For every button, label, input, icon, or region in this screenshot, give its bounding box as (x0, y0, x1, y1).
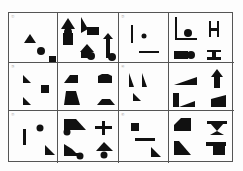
problem-2-options[interactable] (169, 13, 234, 63)
vertical-line-icon (175, 17, 177, 39)
ibeam-bottom (207, 57, 221, 60)
problem-6-question: ⑥ (119, 111, 169, 163)
pentagon-icon (174, 118, 191, 131)
circle-icon (101, 152, 108, 159)
block-icon (173, 93, 179, 107)
puzzle-grid: ① ② (8, 12, 233, 162)
problem-3-shapes (9, 63, 58, 111)
triangle-icon (81, 17, 88, 33)
problem-6-options[interactable] (169, 111, 234, 163)
circle-icon (184, 29, 192, 37)
horizontal-line-icon (175, 38, 197, 40)
right-triangle-icon (133, 93, 141, 101)
triangle-icon (24, 34, 36, 43)
problem-4-option-shapes (169, 63, 234, 111)
wedge-icon (179, 101, 195, 107)
hourglass-icon (210, 123, 224, 135)
l-wedge-icon (174, 141, 191, 155)
circle-icon (77, 153, 84, 160)
square-icon (87, 27, 99, 35)
problem-2-question: ② (119, 13, 169, 63)
problem-4-question: ④ (119, 63, 169, 111)
cross-horizontal (95, 126, 112, 129)
triangle-icon (61, 18, 75, 29)
rect-icon (63, 33, 73, 45)
trapezoid-icon (97, 99, 115, 105)
arrow-shaft-icon (214, 76, 220, 88)
right-triangle-icon (151, 147, 161, 157)
problem-3-option-shapes (58, 63, 119, 111)
rect-icon (174, 51, 188, 59)
right-triangle-icon (23, 97, 31, 105)
problem-5-question: ⑤ (9, 111, 58, 163)
horizontal-line-icon (139, 51, 159, 53)
right-triangle-icon (45, 145, 55, 155)
problem-1-question: ① (9, 13, 58, 63)
right-triangle-icon (129, 73, 134, 87)
circle-icon (37, 47, 45, 55)
circle-icon (187, 51, 195, 59)
rect-icon (81, 51, 91, 58)
problem-3-options[interactable] (58, 63, 119, 111)
circle-icon (108, 53, 116, 61)
vertical-line-icon (131, 25, 133, 43)
circle-icon (37, 125, 44, 132)
problem-5-option-shapes (58, 111, 119, 163)
problem-6-option-shapes (169, 111, 234, 163)
triangle-icon (96, 142, 113, 151)
problem-2-shapes (119, 13, 169, 63)
problem-5-options[interactable] (58, 111, 119, 163)
square-icon (41, 85, 49, 93)
square-icon (131, 123, 139, 131)
square-icon (49, 56, 56, 62)
ibeam-stem (212, 51, 216, 58)
problem-4-options[interactable] (169, 63, 234, 111)
problem-4-shapes (119, 63, 169, 111)
problem-6-shapes (119, 111, 169, 163)
trapezoid-icon (64, 75, 78, 83)
wedge-icon (211, 95, 226, 107)
problem-1-option-shapes (58, 13, 119, 63)
problem-1-options[interactable] (58, 13, 119, 63)
problem-1-shapes (9, 13, 58, 63)
octagon-block-icon (98, 74, 112, 83)
dot-icon (142, 34, 147, 39)
right-triangle-icon (23, 75, 31, 83)
wedge-icon (174, 77, 197, 85)
t-block-body (213, 145, 225, 155)
problem-3-question: ③ (9, 63, 58, 111)
h-crossbar (209, 28, 219, 31)
horizontal-bar-icon (135, 138, 155, 141)
arrow-head-icon (211, 69, 223, 77)
trapezoid-icon (64, 119, 86, 130)
problem-2-option-shapes (169, 13, 234, 63)
vertical-bar-icon (23, 129, 26, 145)
problem-5-shapes (9, 111, 58, 163)
right-triangle-icon (142, 73, 147, 87)
circle-icon (64, 129, 71, 136)
triangle-icon (80, 44, 94, 52)
quadrilateral-icon (64, 91, 80, 105)
